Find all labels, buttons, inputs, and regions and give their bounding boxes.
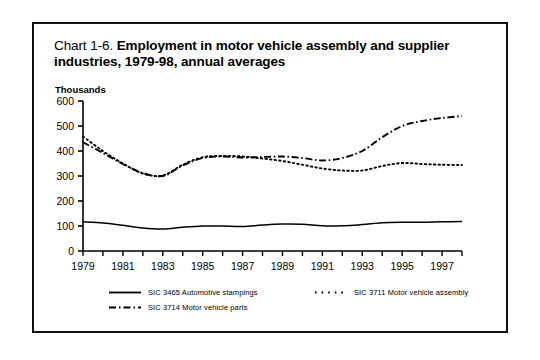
line-chart-svg: 0100200300400500600 19791981198319851987…	[40, 92, 470, 282]
y-tick-label-300: 300	[56, 170, 74, 182]
y-tick-label-0: 0	[68, 245, 74, 257]
chart-legend: SIC 3465 Automotive stampings SIC 3711 M…	[108, 288, 488, 322]
legend-item-dashdot: SIC 3714 Motor vehicle parts	[108, 303, 248, 312]
page-title: Chart 1-6. Employment in motor vehicle a…	[54, 38, 474, 70]
x-tick-label-1995: 1995	[390, 260, 414, 272]
legend-label-1: SIC 3711 Motor vehicle assembly	[354, 288, 468, 297]
legend-key-solid-line-icon	[108, 288, 142, 297]
x-tick-label-1985: 1985	[191, 260, 215, 272]
legend-item-dotted: SIC 3711 Motor vehicle assembly	[314, 288, 468, 297]
x-tick-label-1983: 1983	[151, 260, 175, 272]
chart-title-text: Employment in motor vehicle assembly and…	[54, 38, 449, 69]
y-tick-label-100: 100	[56, 220, 74, 232]
x-tick-label-1979: 1979	[71, 260, 95, 272]
legend-item-solid: SIC 3465 Automotive stampings	[108, 288, 258, 297]
chart-page: Chart 1-6. Employment in motor vehicle a…	[0, 0, 540, 360]
y-tick-label-600: 600	[56, 95, 74, 107]
y-tick-label-400: 400	[56, 145, 74, 157]
chart-number: Chart 1-6.	[54, 38, 113, 53]
y-axis-label-group: 0100200300400500600	[56, 95, 74, 257]
x-tick-label-1993: 1993	[351, 260, 375, 272]
plot-area: 0100200300400500600 19791981198319851987…	[40, 92, 470, 282]
series-line-solid	[83, 222, 462, 230]
legend-label-0: SIC 3465 Automotive stampings	[148, 288, 258, 297]
legend-key-dashdot-line-icon	[108, 303, 142, 312]
y-tick-label-500: 500	[56, 120, 74, 132]
x-tick-label-1987: 1987	[231, 260, 255, 272]
x-tick-label-1981: 1981	[111, 260, 135, 272]
legend-label-2: SIC 3714 Motor vehicle parts	[148, 303, 248, 312]
x-tick-label-1989: 1989	[271, 260, 295, 272]
data-series-group	[83, 116, 462, 229]
legend-key-dotted-line-icon	[314, 288, 348, 297]
x-axis-label-group: 1979198119831985198719891991199319951997	[71, 260, 454, 272]
x-tick-label-1991: 1991	[311, 260, 335, 272]
series-line-dotted	[83, 137, 462, 177]
y-tick-label-200: 200	[56, 195, 74, 207]
x-tick-label-1997: 1997	[430, 260, 454, 272]
series-line-dashdot	[83, 116, 462, 176]
